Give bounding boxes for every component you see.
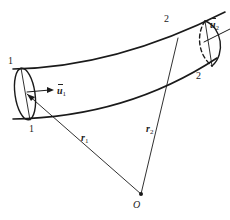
- stream-tube-diagram: 1 1 u1 2 2 u2 r1 r2 O: [0, 0, 230, 220]
- velocity-u2-label: u2: [210, 20, 219, 32]
- position-r2-label: r2: [146, 124, 153, 136]
- origin-point: [139, 192, 143, 196]
- section-1-top-label: 1: [8, 56, 13, 66]
- position-r1-label: r1: [81, 133, 88, 145]
- velocity-u1-label: u1: [57, 86, 66, 98]
- section-1-bottom-label: 1: [29, 124, 34, 134]
- section-2-bottom-label: 2: [196, 71, 201, 81]
- diagram-canvas: [0, 0, 230, 220]
- velocity-u1-shaft: [27, 90, 50, 92]
- section-2-top-label: 2: [164, 14, 169, 24]
- position-vector-r2: [141, 38, 178, 194]
- origin-label: O: [133, 200, 140, 210]
- position-vector-r2-tail: [178, 38, 206, 44]
- velocity-u1-arrowhead: [47, 87, 54, 93]
- tube-upper-wall: [13, 12, 225, 69]
- section-1-ellipse: [11, 67, 38, 121]
- section-1-diameter: [21, 68, 30, 120]
